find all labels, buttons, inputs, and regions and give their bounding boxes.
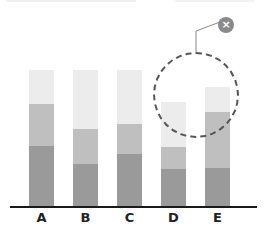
bar-segment-bottom (29, 146, 54, 207)
bar-a (29, 70, 54, 207)
bar-segment-middle (117, 124, 142, 154)
bar-segment-middle (73, 129, 98, 164)
stacked-bar-chart: A B C D E × (0, 0, 265, 230)
bar-segment-top (117, 70, 142, 124)
x-label-b: B (73, 210, 98, 225)
bar-segment-top (73, 70, 98, 129)
dashed-highlight-circle (153, 52, 239, 138)
bar-b (73, 70, 98, 207)
x-label-e: E (205, 210, 230, 225)
x-label-a: A (29, 210, 54, 225)
bar-segment-bottom (205, 168, 230, 207)
bar-c (117, 70, 142, 207)
bar-segment-middle (161, 147, 186, 169)
x-label-d: D (161, 210, 186, 225)
bar-segment-middle (29, 104, 54, 146)
bar-segment-top (29, 70, 54, 104)
close-icon[interactable]: × (218, 17, 234, 33)
x-axis-line (10, 206, 257, 208)
bar-segment-bottom (117, 154, 142, 207)
bar-segment-bottom (73, 164, 98, 207)
bar-segment-bottom (161, 169, 186, 207)
x-label-c: C (117, 210, 142, 225)
